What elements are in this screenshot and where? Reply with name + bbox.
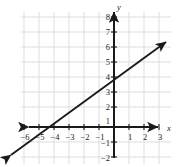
x-tick-label--3: −3 — [65, 132, 74, 142]
x-tick-label--4: −4 — [50, 132, 60, 142]
y-tick-label-3: 3 — [106, 87, 110, 97]
y-axis-label: y — [116, 2, 121, 12]
x-tick-label--5: −5 — [35, 132, 44, 142]
y-tick-label--2: −2 — [101, 153, 110, 163]
y-tick-label-5: 5 — [106, 57, 110, 67]
x-axis-label: x — [166, 123, 171, 133]
y-tick-label-1: 1 — [106, 116, 110, 126]
x-tick-label--6: −6 — [20, 132, 29, 142]
coordinate-graph: −6 −5 −4 −3 −2 −1 1 2 3 8 7 6 5 4 3 2 1 … — [0, 0, 176, 167]
y-tick-label-6: 6 — [106, 42, 110, 52]
x-tick-label-1: 1 — [128, 132, 132, 142]
y-tick-label-7: 7 — [106, 27, 110, 37]
x-tick-label--2: −2 — [80, 132, 89, 142]
y-tick-label-8: 8 — [106, 12, 110, 22]
x-tick-label-2: 2 — [143, 132, 147, 142]
y-tick-label-2: 2 — [106, 102, 110, 112]
plot-svg: −6 −5 −4 −3 −2 −1 1 2 3 8 7 6 5 4 3 2 1 … — [0, 0, 176, 167]
x-tick-label-3: 3 — [158, 132, 162, 142]
y-tick-label--1: −1 — [101, 138, 110, 148]
